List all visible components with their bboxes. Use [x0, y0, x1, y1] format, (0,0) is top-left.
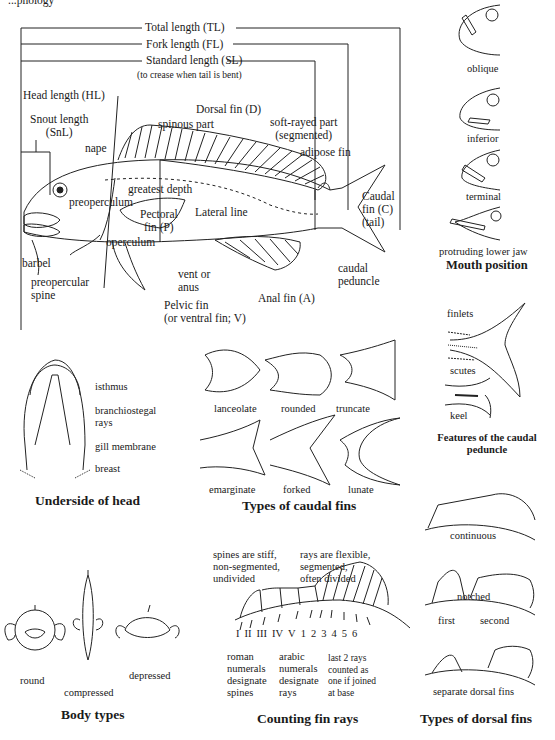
label-dorsal-fin: Dorsal fin (D) — [196, 103, 261, 116]
numeral: 6 — [352, 628, 357, 639]
body-type-drawings — [5, 570, 179, 660]
label-caudal-truncate: truncate — [336, 403, 370, 415]
label-caudal-lanceolate: lanceolate — [214, 403, 257, 415]
label-dorsal-notched: notched — [457, 591, 490, 603]
label-operculum: operculum — [106, 236, 155, 249]
label-spinous-part: spinous part — [158, 118, 214, 131]
label-gill-membrane: gill membrane — [95, 441, 156, 453]
label-nape: nape — [85, 142, 107, 155]
counting-fin-rays-title: Counting fin rays — [257, 711, 358, 727]
label-head-length: Head length (HL) — [23, 89, 105, 102]
label-lateral-line: Lateral line — [195, 206, 248, 219]
label-arabic-note: arabic numerals designate rays — [279, 651, 319, 699]
label-dorsal-second: second — [480, 615, 509, 627]
label-mouth-protruding: protruding lower jaw — [439, 246, 528, 258]
numeral: III — [257, 628, 268, 639]
dorsal-fin-types-title: Types of dorsal fins — [420, 711, 532, 727]
numeral: IV — [272, 628, 283, 639]
label-rays-note: rays are flexible, segmented, often divi… — [300, 549, 370, 585]
label-standard-length: Standard length (SL) — [146, 54, 242, 67]
label-greatest-depth: greatest depth — [128, 183, 192, 196]
label-dorsal-first: first — [438, 615, 455, 627]
label-breast: breast — [95, 463, 120, 475]
label-caudal-peduncle: caudal peduncle — [338, 262, 380, 288]
mouth-position-title: Mouth position — [446, 258, 528, 273]
label-barbel: barbel — [22, 257, 51, 270]
body-types-title: Body types — [61, 707, 124, 723]
label-anal-fin: Anal fin (A) — [258, 292, 315, 305]
label-mouth-inferior: inferior — [467, 133, 499, 145]
dorsal-fin-drawings — [425, 494, 535, 685]
label-standard-length-note: (to crease when tail is bent) — [137, 70, 242, 82]
mouth-position-heads — [450, 5, 501, 240]
label-body-round: round — [20, 675, 45, 687]
title-fragment: ...phology — [8, 0, 54, 7]
label-body-compressed: compressed — [64, 687, 114, 699]
label-caudal-emarginate: emarginate — [209, 484, 255, 496]
label-vent: vent or anus — [178, 268, 210, 294]
label-roman-note: roman numerals designate spines — [227, 651, 267, 699]
numeral: 2 — [311, 628, 316, 639]
label-pelvic-fin: Pelvic fin (or ventral fin; V) — [164, 299, 246, 325]
label-finlets: finlets — [447, 308, 473, 320]
label-soft-rayed-part: soft-rayed part (segmented) — [270, 116, 337, 142]
label-caudal-fin: Caudal fin (C) (tail) — [362, 190, 395, 229]
label-caudal-rounded: rounded — [281, 403, 315, 415]
numeral: 1 — [301, 628, 306, 639]
label-last-rays-note: last 2 rays counted as one if joined at … — [328, 653, 376, 699]
numeral: II — [245, 628, 252, 639]
underside-head-title: Underside of head — [35, 493, 140, 509]
label-branchiostegal-rays: branchiostegal rays — [95, 405, 156, 429]
label-caudal-lunate: lunate — [348, 484, 374, 496]
numeral: V — [288, 628, 296, 639]
label-dorsal-continuous: continuous — [450, 530, 496, 542]
label-keel: keel — [450, 410, 468, 422]
label-dorsal-separate: separate dorsal fins — [433, 686, 514, 698]
label-caudal-forked: forked — [283, 484, 310, 496]
label-mouth-oblique: oblique — [467, 63, 499, 75]
label-body-depressed: depressed — [129, 670, 170, 682]
label-spines-note: spines are stiff, non-segmented, undivid… — [213, 549, 280, 585]
underside-head-drawing — [20, 360, 90, 478]
fin-ray-numerals: I II III IV V 1 2 3 4 5 6 — [236, 628, 357, 639]
caudal-peduncle-title: Features of the caudal peduncle — [432, 432, 542, 456]
label-preoperculum: preoperculum — [69, 196, 133, 209]
numeral: 5 — [342, 628, 347, 639]
caudal-peduncle-drawings — [445, 303, 525, 418]
label-total-length: Total length (TL) — [145, 21, 225, 34]
label-adipose-fin: adipose fin — [300, 146, 351, 159]
label-pectoral-fin: Pectoral fin (P) — [140, 208, 178, 234]
label-preopercular-spine: preopercular spine — [31, 276, 89, 302]
caudal-fin-types-title: Types of caudal fins — [242, 498, 356, 514]
numeral: 4 — [331, 628, 336, 639]
label-snout-length: Snout length (SnL) — [30, 113, 88, 139]
numeral: 3 — [321, 628, 326, 639]
label-scutes: scutes — [450, 365, 476, 377]
label-fork-length: Fork length (FL) — [146, 38, 223, 51]
label-isthmus: isthmus — [95, 381, 128, 393]
label-mouth-terminal: terminal — [466, 191, 501, 203]
numeral: I — [236, 628, 240, 639]
